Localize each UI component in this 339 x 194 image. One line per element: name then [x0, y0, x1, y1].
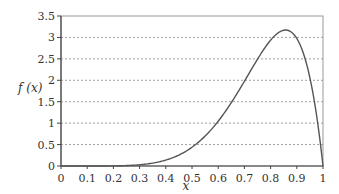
x-tick-label: 0.8	[262, 172, 280, 185]
y-tick-label: 1.5	[38, 96, 56, 109]
x-tick-label: 0.3	[131, 172, 149, 185]
pdf-curve	[61, 30, 323, 166]
y-tick-label: 2.5	[38, 53, 56, 66]
grid-lines	[61, 37, 323, 144]
x-tick-label: 0.7	[236, 172, 254, 185]
x-tick-label: 0	[58, 172, 65, 185]
x-axis-label: x	[183, 179, 190, 193]
y-tick-label: 3	[48, 31, 55, 44]
x-tick-label: 1	[320, 172, 327, 185]
y-tick-label: 3.5	[38, 10, 56, 23]
y-tick-label: 0.5	[38, 139, 56, 152]
y-tick-label: 2	[48, 74, 55, 87]
y-axis-label: f (x)	[17, 81, 43, 95]
plot-frame	[61, 16, 323, 166]
x-tick-label: 0.9	[288, 172, 306, 185]
chart: 00.511.522.533.5 00.10.20.30.40.50.60.70…	[0, 0, 339, 194]
x-tick-label: 0.2	[105, 172, 123, 185]
x-tick-label: 0.6	[209, 172, 227, 185]
y-tick-label: 1	[48, 117, 55, 130]
x-tick-label: 0.1	[78, 172, 96, 185]
x-axis: 00.10.20.30.40.50.60.70.80.91	[58, 166, 327, 185]
y-tick-label: 0	[48, 160, 55, 173]
x-tick-label: 0.4	[157, 172, 175, 185]
